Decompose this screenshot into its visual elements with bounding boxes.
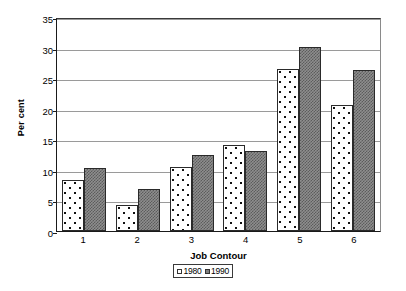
bar-1990-1 [84,168,106,231]
bar-1980-5 [277,69,299,231]
bar-1990-5 [299,47,321,231]
bar-chart-figure: Per cent 05101520253035 123456 Job Conto… [0,0,406,291]
y-axis-tick-label: 35 [42,14,53,25]
bar-group [57,19,111,231]
bar-group [165,19,219,231]
bar-1980-1 [62,180,84,231]
x-axis-tick-label: 4 [219,234,273,245]
plot-area: 05101520253035 [56,18,381,232]
legend-item: 1990 [205,266,230,276]
bar-1990-6 [353,70,375,231]
bar-1980-4 [223,145,245,231]
y-axis-tick-label: 20 [42,105,53,116]
bar-group [326,19,380,231]
y-axis-title: Per cent [14,78,28,158]
x-axis-title: Job Contour [56,250,381,261]
bar-1980-6 [331,105,353,231]
bar-1980-3 [170,167,192,231]
bar-group [111,19,165,231]
bar-1990-4 [245,151,267,231]
gray-checker-swatch [205,269,210,274]
y-axis-tick-label: 10 [42,166,53,177]
x-axis-tick-label: 2 [110,234,164,245]
y-axis-tick-label: 30 [42,44,53,55]
x-axis-tick-label: 3 [164,234,218,245]
bar-1990-2 [138,189,160,231]
x-axis-tick-label: 1 [56,234,110,245]
legend-item-label: 1980 [183,266,201,276]
bar-1990-3 [192,155,214,231]
legend-item-label: 1990 [211,266,229,276]
x-axis-tick-label: 6 [327,234,381,245]
bar-group [272,19,326,231]
y-axis-title-label: Per cent [16,99,26,136]
x-axis-tick-label: 5 [273,234,327,245]
y-axis-tick-label: 25 [42,75,53,86]
y-axis-tick-label: 15 [42,136,53,147]
dotted-white-swatch [177,269,182,274]
bar-groups [57,19,380,231]
legend-box: 19801990 [173,264,233,278]
legend-item: 1980 [177,266,202,276]
x-axis-tick-labels: 123456 [56,234,381,245]
bar-1980-2 [116,205,138,231]
bar-group [218,19,272,231]
legend: 19801990 [0,264,406,278]
